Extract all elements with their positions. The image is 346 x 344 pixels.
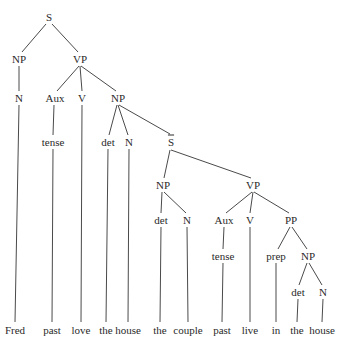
leaf-word: Fred <box>5 325 25 336</box>
leaf-word: past <box>43 325 61 336</box>
node-label-vp1: VP <box>73 54 87 65</box>
tree-edge <box>164 192 186 213</box>
tree-edge <box>292 227 307 249</box>
tree-edge <box>226 192 252 213</box>
node-label-n1: N <box>15 93 23 104</box>
node-label-det2: det <box>154 215 167 226</box>
tree-edge <box>187 227 188 322</box>
node-label-s: S <box>46 12 52 23</box>
node-label-prep: prep <box>266 251 286 262</box>
node-label-pp: PP <box>285 215 297 226</box>
node-label-sbar: S <box>168 137 174 148</box>
tree-edge <box>171 150 251 178</box>
tree-edge <box>57 66 79 91</box>
tree-edge <box>309 263 322 285</box>
node-label-np3: NP <box>156 180 170 191</box>
tree-edge <box>222 263 223 322</box>
tree-edge <box>322 299 323 322</box>
leaf-word: couple <box>173 325 202 336</box>
tree-edge <box>106 149 108 322</box>
tree-edge <box>53 105 54 135</box>
leaf-word: the <box>290 325 303 336</box>
node-label-aux1: Aux <box>46 93 65 104</box>
tree-edge <box>109 105 117 135</box>
node-label-det3: det <box>291 287 304 298</box>
leaf-word: love <box>72 325 91 336</box>
leaf-word: house <box>115 325 141 336</box>
tree-edge <box>161 192 162 213</box>
leaf-word: in <box>272 325 281 336</box>
tree-edge <box>52 149 53 322</box>
tree-edge <box>22 24 46 52</box>
leaf-word: the <box>153 325 166 336</box>
node-label-vp2: VP <box>246 180 260 191</box>
tree-edge <box>80 66 82 91</box>
node-label-np2: NP <box>111 93 125 104</box>
node-label-n4: N <box>319 287 327 298</box>
tree-edge <box>254 192 289 213</box>
tree-edge <box>81 66 116 91</box>
node-label-n3: N <box>183 215 191 226</box>
node-label-tense1: tense <box>42 137 65 148</box>
tree-edge <box>164 150 170 178</box>
leaf-word: live <box>242 325 259 336</box>
node-label-v1: V <box>78 93 86 104</box>
tree-edge <box>128 149 129 322</box>
node-label-tense2: tense <box>212 251 235 262</box>
node-label-n2: N <box>125 137 133 148</box>
tree-edge <box>223 227 224 249</box>
node-label-det1: det <box>101 137 114 148</box>
tree-edge <box>297 299 298 322</box>
leaf-word: house <box>309 325 335 336</box>
node-label-aux2: Aux <box>215 215 234 226</box>
tree-edge <box>299 263 307 285</box>
tree-edge <box>81 105 82 322</box>
node-label-np1: NP <box>12 54 26 65</box>
node-label-v2: V <box>246 215 254 226</box>
node-label-np4: NP <box>301 251 315 262</box>
tree-edge <box>160 227 161 322</box>
tree-edge <box>15 105 19 322</box>
tree-edge <box>278 227 290 249</box>
leaf-word: the <box>99 325 112 336</box>
tree-edge <box>250 192 253 213</box>
tree-edge <box>52 24 78 52</box>
leaf-word: past <box>213 325 231 336</box>
